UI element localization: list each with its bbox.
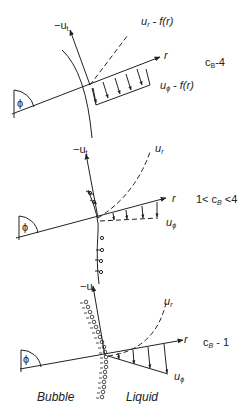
uphi-arrow [148, 347, 150, 368]
radial-axis-label: r [184, 334, 188, 345]
ur-label: ur [164, 296, 172, 308]
tangential-axis [86, 154, 98, 218]
uphi-arrow [126, 210, 127, 219]
tangential-axis-label: −ut [80, 281, 95, 293]
radial-axis [12, 57, 160, 114]
tangential-axis [70, 30, 90, 85]
radial-axis [16, 198, 166, 238]
uphi-profile-line [108, 356, 168, 374]
uphi-arrow [133, 350, 134, 364]
uphi-arrow [113, 213, 114, 220]
interface-curve [62, 50, 92, 138]
phi-label: ϕ [22, 222, 28, 233]
ur-label: ur - f(r) [141, 16, 173, 28]
panel-cb1 [20, 286, 183, 399]
phi-label: ϕ [23, 354, 29, 365]
uphi-profile-end [146, 69, 150, 85]
radial-axis-label: r [172, 193, 176, 204]
condition-label: cB-4 [205, 57, 225, 69]
bubble-region-label: Bubble [37, 391, 74, 403]
uphi-label: uϕ [166, 217, 176, 229]
phi-label: ϕ [17, 98, 23, 109]
condition-label: cB - 1 [203, 337, 229, 349]
uphi-label: uϕ [174, 371, 184, 383]
interface-particles [86, 191, 104, 274]
uphi-profile-line [100, 218, 158, 221]
tangential-axis-label: −ut [73, 144, 88, 156]
radial-axis-label: r [164, 50, 168, 61]
ur-label: ur [155, 143, 163, 155]
ur-profile [90, 35, 128, 85]
radial-axis [20, 340, 183, 369]
liquid-region-label: Liquid [126, 391, 158, 403]
panel-cb4 [12, 30, 160, 138]
uphi-arrow [115, 78, 120, 94]
uphi-arrow [164, 344, 167, 373]
interface-curve [88, 190, 99, 284]
uphi-label: uϕ - f(r) [160, 80, 194, 92]
uphi-profile-line [96, 85, 150, 105]
panel-cb-between [16, 152, 166, 284]
tangential-axis-label: −ut [54, 20, 69, 32]
uphi-arrow [126, 74, 131, 90]
condition-label: 1< cB <4 [196, 194, 237, 206]
uphi-arrow [103, 82, 108, 98]
uphi-arrow [137, 69, 142, 85]
uphi-arrow [142, 206, 143, 218]
